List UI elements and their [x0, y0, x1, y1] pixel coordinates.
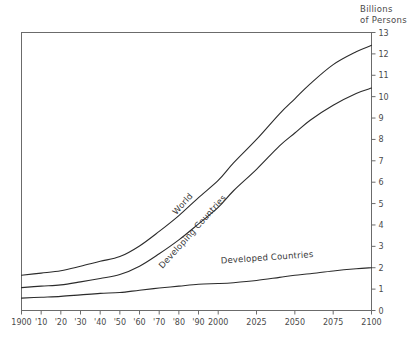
plot-frame: [22, 33, 372, 311]
y-tick-label: 13: [379, 29, 389, 38]
x-tick-label: '50: [114, 318, 126, 327]
y-tick-label: 2: [379, 264, 384, 273]
y-axis-title-line1: Billions: [360, 4, 393, 14]
x-tick-label: 2050: [285, 318, 305, 327]
y-tick-label: 7: [379, 157, 384, 166]
y-tick-label: 9: [379, 114, 384, 123]
x-tick-label: 2000: [208, 318, 228, 327]
y-axis-ticks: [372, 33, 376, 311]
x-tick-label: 1900: [11, 318, 31, 327]
series-curve-developing-countries: [22, 88, 372, 288]
y-tick-label: 5: [379, 200, 384, 209]
x-tick-label: '40: [94, 318, 106, 327]
curve-annotations: WorldDeveloping CountriesDeveloped Count…: [157, 191, 314, 270]
x-axis-tick-labels: 1900'10'20'30'40'50'60'70'80'90200020252…: [11, 318, 381, 327]
x-tick-label: '20: [55, 318, 67, 327]
curve-label: Developed Countries: [220, 249, 314, 265]
x-tick-label: '30: [74, 318, 86, 327]
y-axis-title-line2: of Persons: [360, 15, 407, 25]
x-tick-label: 2100: [361, 318, 381, 327]
curve-label: Developing Countries: [157, 192, 229, 270]
y-tick-label: 10: [379, 93, 389, 102]
data-curves: [22, 45, 372, 298]
y-tick-label: 0: [379, 307, 384, 316]
y-tick-label: 1: [379, 285, 384, 294]
x-tick-label: '70: [153, 318, 165, 327]
y-tick-label: 3: [379, 242, 384, 251]
series-curve-world: [22, 45, 372, 275]
x-tick-label: '60: [133, 318, 145, 327]
y-tick-label: 11: [379, 71, 389, 80]
y-tick-label: 4: [379, 221, 384, 230]
y-tick-label: 8: [379, 135, 384, 144]
x-tick-label: 2075: [323, 318, 343, 327]
x-tick-label: 2025: [246, 318, 266, 327]
x-axis-ticks: [22, 311, 372, 315]
y-tick-label: 6: [379, 178, 384, 187]
x-tick-label: '10: [35, 318, 47, 327]
population-projection-figure: Billions of Persons 012345678910111213 1…: [0, 0, 417, 337]
x-tick-label: '90: [192, 318, 204, 327]
chart-canvas: Billions of Persons 012345678910111213 1…: [0, 0, 417, 337]
y-axis-tick-labels: 012345678910111213: [379, 29, 389, 316]
y-tick-label: 12: [379, 50, 389, 59]
x-tick-label: '80: [173, 318, 185, 327]
